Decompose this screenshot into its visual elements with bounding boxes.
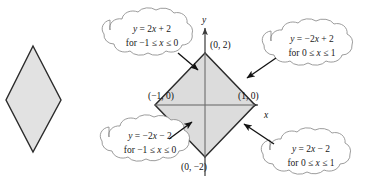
x-axis-label: x <box>263 110 269 120</box>
y-axis-label: y <box>201 15 207 25</box>
callout-top-left-equation: y = 2x + 2 <box>132 24 171 34</box>
left-vertex-label: (−1, 0) <box>148 91 174 102</box>
callout-bottom-right: y = 2x − 2 for 0 ≤ x ≤ 1 <box>244 124 351 174</box>
bottom-vertex-label: (0, −2) <box>181 162 207 173</box>
callout-top-right: y = −2x + 2 for 0 ≤ x ≤ 1 <box>247 19 353 78</box>
callout-bottom-left-domain: for −1 ≤ x ≤ 0 <box>124 145 177 155</box>
callout-top-right-equation: y = −2x + 2 <box>289 34 334 44</box>
callout-bottom-right-domain: for 0 ≤ x ≤ 1 <box>287 158 334 168</box>
callout-top-right-arrow <box>247 58 276 78</box>
callout-top-right-domain: for 0 ≤ x ≤ 1 <box>288 48 335 58</box>
callout-bottom-left-equation: y = −2x − 2 <box>127 131 172 141</box>
callout-top-left-arrow <box>178 53 198 70</box>
callout-top-left-domain: for −1 ≤ x ≤ 0 <box>126 38 179 48</box>
right-vertex-label: (1, 0) <box>238 91 259 102</box>
diagram-svg: x y (0, 2) (1, 0) (−1, 0) (0, −2) y = 2x… <box>0 0 365 186</box>
callout-bottom-right-arrow <box>244 124 274 144</box>
callout-bottom-left: y = −2x − 2 for −1 ≤ x ≤ 0 <box>100 115 192 161</box>
diagram-canvas: x y (0, 2) (1, 0) (−1, 0) (0, −2) y = 2x… <box>0 0 365 186</box>
left-rhombus-shape <box>6 46 61 152</box>
left-rhombus-group <box>6 46 61 152</box>
callout-bottom-right-equation: y = 2x − 2 <box>291 144 330 154</box>
top-vertex-label: (0, 2) <box>210 40 231 51</box>
callout-top-left: y = 2x + 2 for −1 ≤ x ≤ 0 <box>102 8 198 70</box>
